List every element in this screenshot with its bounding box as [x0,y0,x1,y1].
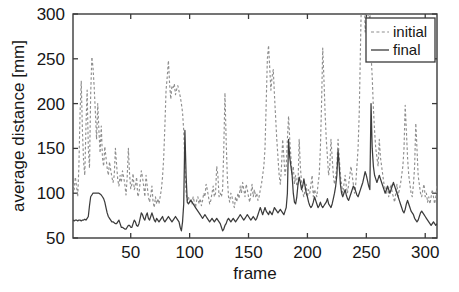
y-tick-label: 150 [37,139,65,158]
legend-label-initial: initial [393,23,427,40]
plot-canvas: 50100150200250300 50100150200250300 fram… [0,0,459,292]
x-tick-label: 250 [352,243,380,262]
y-tick-label: 250 [37,50,65,69]
legend-label-final: final [393,41,421,58]
chart-figure: 50100150200250300 50100150200250300 fram… [0,0,459,292]
x-axis-title: frame [233,264,276,283]
x-tick-label: 50 [121,243,140,262]
y-tick-label: 300 [37,5,65,24]
x-tick-label: 200 [293,243,321,262]
x-tick-label: 150 [234,243,262,262]
x-axis-tick-labels: 50100150200250300 [121,243,439,262]
y-axis-title: average distance [mm] [9,40,28,212]
x-tick-label: 300 [411,243,439,262]
x-tick-label: 100 [175,243,203,262]
y-tick-label: 200 [37,95,65,114]
y-tick-label: 50 [46,229,65,248]
chart-legend: initial final [366,18,435,62]
y-axis-tick-labels: 50100150200250300 [37,5,65,248]
y-tick-label: 100 [37,184,65,203]
